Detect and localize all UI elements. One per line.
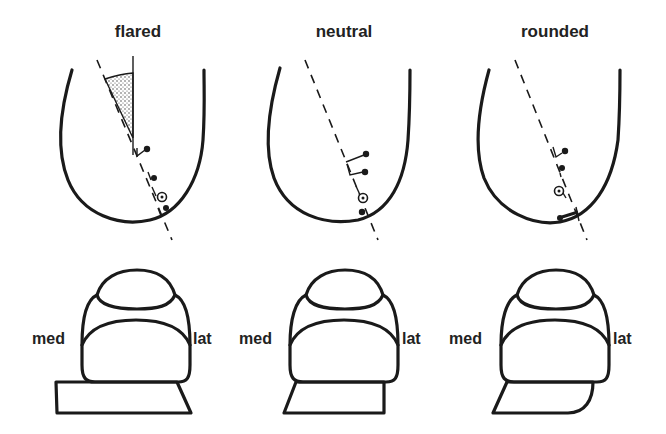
- panel-neutral-top: neutral: [268, 22, 410, 240]
- toe-cap: [306, 270, 383, 309]
- marker-circle-center: [558, 190, 561, 193]
- marker-bracket: [346, 155, 364, 162]
- panel-neutral-bottom: med lat: [239, 270, 421, 413]
- panel-title-neutral: neutral: [316, 22, 373, 41]
- marker-bracket: [137, 148, 145, 156]
- marker-dot: [144, 146, 150, 152]
- axis-dashed-line: [305, 60, 378, 240]
- medial-label: med: [449, 330, 482, 347]
- marker-circle-center: [362, 197, 365, 200]
- heel-base-rounded: [493, 382, 593, 413]
- medial-label: med: [239, 330, 272, 347]
- panel-flared-top: flared: [61, 22, 204, 240]
- marker-bracket: [553, 147, 562, 157]
- lateral-label: lat: [613, 330, 632, 347]
- marker-dot: [151, 175, 157, 181]
- marker-dot: [559, 165, 565, 171]
- heel-outline-rounded: [478, 70, 620, 223]
- marker-tick: [563, 193, 566, 198]
- toe-cap: [517, 270, 594, 309]
- marker-dot: [163, 205, 169, 211]
- panel-flared-bottom: med lat: [32, 270, 212, 413]
- lateral-label: lat: [193, 330, 212, 347]
- toe-cap: [97, 270, 175, 309]
- panel-rounded-top: rounded: [478, 22, 620, 240]
- marker-dot: [359, 209, 365, 215]
- heel-outline-neutral: [268, 68, 410, 222]
- marker-tick: [356, 186, 360, 195]
- heel-base-neutral: [284, 382, 384, 413]
- shoe-last-diagram: flared neutral rounded: [0, 0, 666, 434]
- medial-label: med: [32, 330, 65, 347]
- marker-tick: [560, 173, 561, 177]
- panel-title-rounded: rounded: [521, 22, 589, 41]
- marker-dot: [363, 151, 369, 157]
- marker-circle-center: [161, 196, 164, 199]
- vamp-line: [82, 320, 190, 345]
- vamp-line: [501, 320, 609, 345]
- flare-angle-wedge: [105, 73, 133, 138]
- marker-dot: [562, 148, 568, 154]
- heel-base-flared: [56, 382, 191, 413]
- panel-rounded-bottom: med lat: [449, 270, 632, 413]
- lateral-label: lat: [402, 330, 421, 347]
- vamp-line: [290, 320, 398, 345]
- marker-tick: [148, 172, 151, 180]
- panel-title-flared: flared: [115, 22, 161, 41]
- marker-dot: [362, 169, 368, 175]
